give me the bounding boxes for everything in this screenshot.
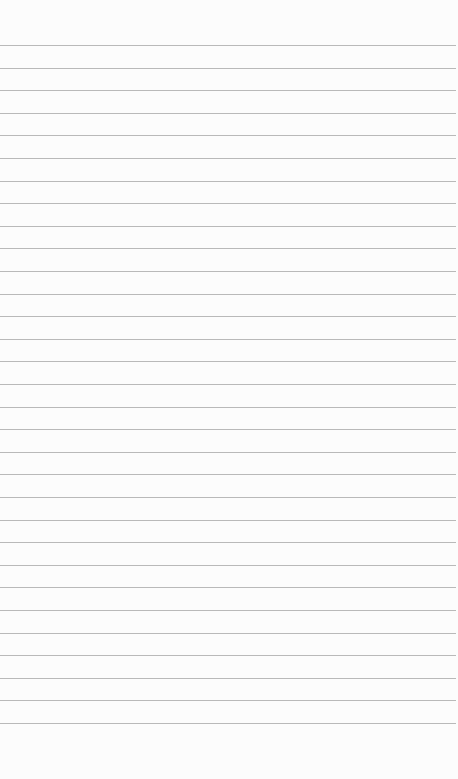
ruled-line <box>0 655 456 656</box>
ruled-line <box>0 68 456 69</box>
ruled-line <box>0 700 456 701</box>
ruled-line <box>0 361 456 362</box>
ruled-line <box>0 587 456 588</box>
ruled-line <box>0 248 456 249</box>
ruled-line <box>0 474 456 475</box>
ruled-line <box>0 45 456 46</box>
ruled-line <box>0 497 456 498</box>
ruled-line <box>0 520 456 521</box>
ruled-line <box>0 339 456 340</box>
ruled-line <box>0 113 456 114</box>
ruled-line <box>0 542 456 543</box>
ruled-line <box>0 226 456 227</box>
ruled-line <box>0 610 456 611</box>
ruled-line <box>0 384 456 385</box>
ruled-line <box>0 294 456 295</box>
ruled-line <box>0 633 456 634</box>
ruled-line <box>0 316 456 317</box>
ruled-line <box>0 271 456 272</box>
ruled-line <box>0 452 456 453</box>
ruled-line <box>0 429 456 430</box>
ruled-line <box>0 90 456 91</box>
ruled-line <box>0 203 456 204</box>
ruled-line <box>0 678 456 679</box>
ruled-line <box>0 135 456 136</box>
ruled-line <box>0 565 456 566</box>
ruled-line <box>0 158 456 159</box>
lined-paper-page <box>0 0 458 779</box>
ruled-line <box>0 407 456 408</box>
ruled-line <box>0 181 456 182</box>
ruled-line <box>0 723 456 724</box>
